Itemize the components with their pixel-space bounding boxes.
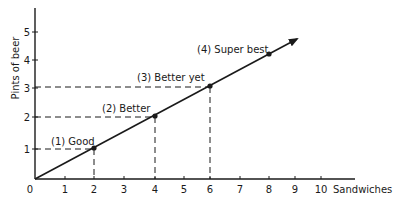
svg-text:8: 8 xyxy=(266,184,272,195)
svg-text:4: 4 xyxy=(24,55,30,66)
x-axis-label: Sandwiches xyxy=(333,184,392,195)
svg-text:3: 3 xyxy=(121,184,127,195)
svg-text:(3) Better yet: (3) Better yet xyxy=(137,72,205,83)
y-tick-labels: 1 2 3 4 5 xyxy=(24,27,30,155)
svg-text:1: 1 xyxy=(62,184,68,195)
point-better-yet xyxy=(207,83,212,88)
point-labels: (1) Good (2) Better (3) Better yet (4) S… xyxy=(51,44,269,147)
svg-text:2: 2 xyxy=(24,112,30,123)
chart: 1 2 3 4 5 1 2 3 4 5 6 7 8 9 10 0 Sandwic… xyxy=(0,0,399,204)
svg-text:1: 1 xyxy=(24,144,30,155)
svg-text:3: 3 xyxy=(24,83,30,94)
svg-text:10: 10 xyxy=(315,184,328,195)
origin-label: 0 xyxy=(27,184,33,195)
svg-text:2: 2 xyxy=(91,184,97,195)
svg-text:(2) Better: (2) Better xyxy=(102,103,151,114)
svg-text:5: 5 xyxy=(181,184,187,195)
svg-text:5: 5 xyxy=(24,27,30,38)
svg-text:7: 7 xyxy=(237,184,243,195)
svg-text:9: 9 xyxy=(292,184,298,195)
point-better xyxy=(152,113,157,118)
svg-text:6: 6 xyxy=(207,184,213,195)
svg-text:(4) Super best: (4) Super best xyxy=(197,44,269,55)
svg-text:(1) Good: (1) Good xyxy=(51,136,95,147)
series-line xyxy=(35,39,297,179)
svg-text:4: 4 xyxy=(152,184,158,195)
x-tick-labels: 1 2 3 4 5 6 7 8 9 10 xyxy=(62,184,328,195)
y-axis-label: Pints of beer xyxy=(10,36,21,100)
